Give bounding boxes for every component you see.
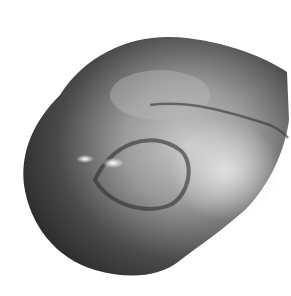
specular-highlight-2 — [102, 158, 124, 168]
upper-light — [110, 70, 210, 120]
light-region — [170, 120, 280, 220]
stone-photo — [0, 0, 291, 296]
specular-highlight-1 — [76, 155, 94, 163]
photo-canvas — [0, 0, 291, 296]
